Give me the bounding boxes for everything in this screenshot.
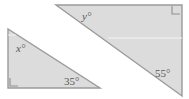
- angle-label-55: 55°: [155, 67, 170, 79]
- geometry-figure: x° 35° y° 55°: [0, 0, 189, 99]
- angle-label-x: x°: [15, 42, 26, 54]
- angle-label-35: 35°: [64, 75, 79, 87]
- left-triangle: [8, 29, 100, 88]
- angle-label-y: y°: [81, 10, 92, 22]
- geometry-figure-canvas: x° 35° y° 55°: [0, 0, 189, 99]
- left-triangle-group: x° 35°: [8, 29, 100, 88]
